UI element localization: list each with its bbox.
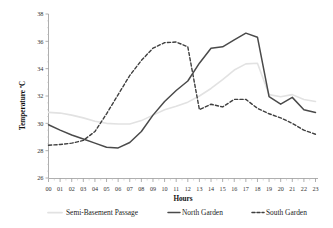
x-tick-label: 08 — [138, 186, 144, 192]
x-tick-label: 19 — [266, 186, 272, 192]
x-tick-label: 18 — [254, 186, 260, 192]
x-tick-label: 17 — [243, 186, 249, 192]
x-tick-label: 10 — [162, 186, 168, 192]
legend-label-north-garden: North Garden — [182, 208, 223, 217]
x-tick-label: 11 — [173, 186, 179, 192]
y-tick-label: 26 — [37, 174, 43, 181]
x-tick-label: 03 — [80, 186, 86, 192]
legend-label-south-garden: South Garden — [266, 208, 307, 217]
temperature-line-chart: 26283032343638 0001020304050607080910111… — [0, 0, 333, 228]
y-tick-label: 34 — [37, 65, 44, 72]
chart-canvas: 26283032343638 0001020304050607080910111… — [0, 0, 333, 228]
x-tick-label: 12 — [185, 186, 191, 192]
x-tick-label: 13 — [196, 186, 202, 192]
x-tick-label: 14 — [208, 186, 214, 192]
y-tick-label: 32 — [37, 92, 43, 99]
x-tick-label: 20 — [278, 186, 284, 192]
x-tick-label: 06 — [115, 186, 121, 192]
x-tick-label: 00 — [45, 186, 51, 192]
legend-label-semi-basement-passage: Semi-Basement Passage — [66, 208, 139, 217]
x-tick-label: 22 — [301, 186, 307, 192]
x-tick-label: 16 — [231, 186, 237, 192]
x-tick-label: 02 — [69, 186, 75, 192]
x-tick-label: 07 — [127, 186, 133, 192]
y-axis-title: Temperature ºC — [19, 81, 27, 130]
x-tick-label: 05 — [103, 186, 109, 192]
y-tick-label: 36 — [37, 38, 43, 45]
x-tick-label: 23 — [312, 186, 318, 192]
y-tick-label: 30 — [37, 120, 43, 127]
x-axis-title: Hours — [173, 195, 192, 203]
x-tick-label: 01 — [57, 186, 63, 192]
y-tick-label: 38 — [37, 10, 43, 17]
x-tick-label: 21 — [289, 186, 295, 192]
x-tick-label: 09 — [150, 186, 156, 192]
x-tick-label: 15 — [220, 186, 226, 192]
x-tick-label: 04 — [92, 186, 98, 192]
y-tick-label: 28 — [37, 147, 43, 154]
chart-background — [0, 0, 333, 228]
